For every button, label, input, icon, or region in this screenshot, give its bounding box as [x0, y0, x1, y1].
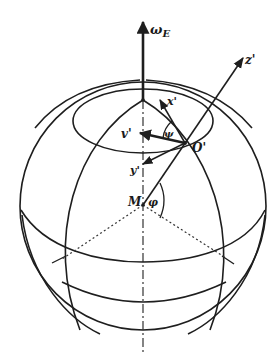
z-prime-label: z': [244, 53, 256, 67]
velocity-vector: [140, 133, 185, 143]
center-label: M: [127, 195, 142, 209]
phi-angle-arc: [160, 183, 164, 218]
meridian-far-left: [22, 215, 100, 334]
omega-label: ωE: [150, 22, 170, 39]
lower-latitude: [62, 282, 226, 302]
z-prime-axis: [143, 58, 243, 205]
radius-left: [62, 205, 143, 259]
meridian-right: [143, 100, 224, 330]
origin-point: [183, 141, 187, 145]
x-prime-label: x': [166, 95, 177, 108]
north-pole-point: [141, 98, 145, 102]
origin-label: O': [192, 141, 206, 155]
center-point: [141, 203, 145, 207]
velocity-label: v': [121, 127, 132, 141]
y-prime-label: y': [129, 164, 140, 177]
radius-right: [143, 205, 226, 258]
psi-label: ψ: [164, 128, 174, 139]
phi-label: φ: [148, 196, 158, 209]
upper-latitude-arc-left: [35, 80, 140, 128]
earth-sphere-diagram: ωE z' x' v' ψ O' y' M φ: [0, 0, 280, 358]
